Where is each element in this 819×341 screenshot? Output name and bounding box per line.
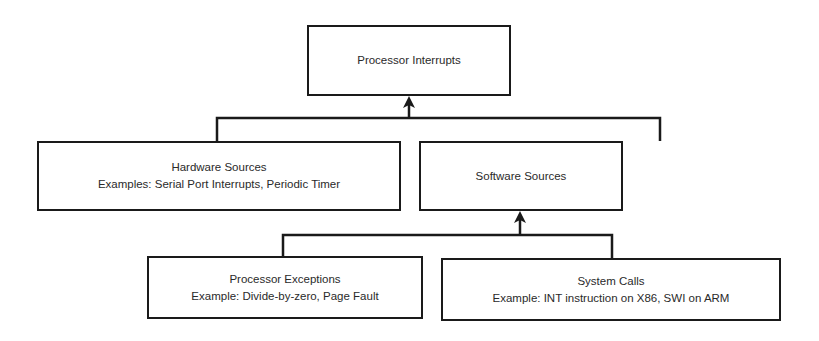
node-subtitle: Examples: Serial Port Interrupts, Period… — [98, 176, 340, 193]
node-processor-interrupts: Processor Interrupts — [307, 25, 511, 96]
connector-level2-to-software — [283, 220, 612, 259]
node-processor-exceptions: Processor Exceptions Example: Divide-by-… — [147, 256, 423, 319]
node-title: System Calls — [577, 273, 644, 290]
node-title: Hardware Sources — [171, 159, 266, 176]
node-system-calls: System Calls Example: INT instruction on… — [441, 258, 781, 321]
node-title: Software Sources — [476, 168, 567, 185]
node-hardware-sources: Hardware Sources Examples: Serial Port I… — [37, 141, 401, 211]
node-subtitle: Example: Divide-by-zero, Page Fault — [191, 288, 378, 305]
node-title: Processor Interrupts — [357, 52, 461, 69]
node-title: Processor Exceptions — [229, 271, 340, 288]
connector-level1-to-root — [217, 104, 660, 141]
node-software-sources: Software Sources — [419, 141, 623, 211]
node-subtitle: Example: INT instruction on X86, SWI on … — [493, 290, 730, 307]
